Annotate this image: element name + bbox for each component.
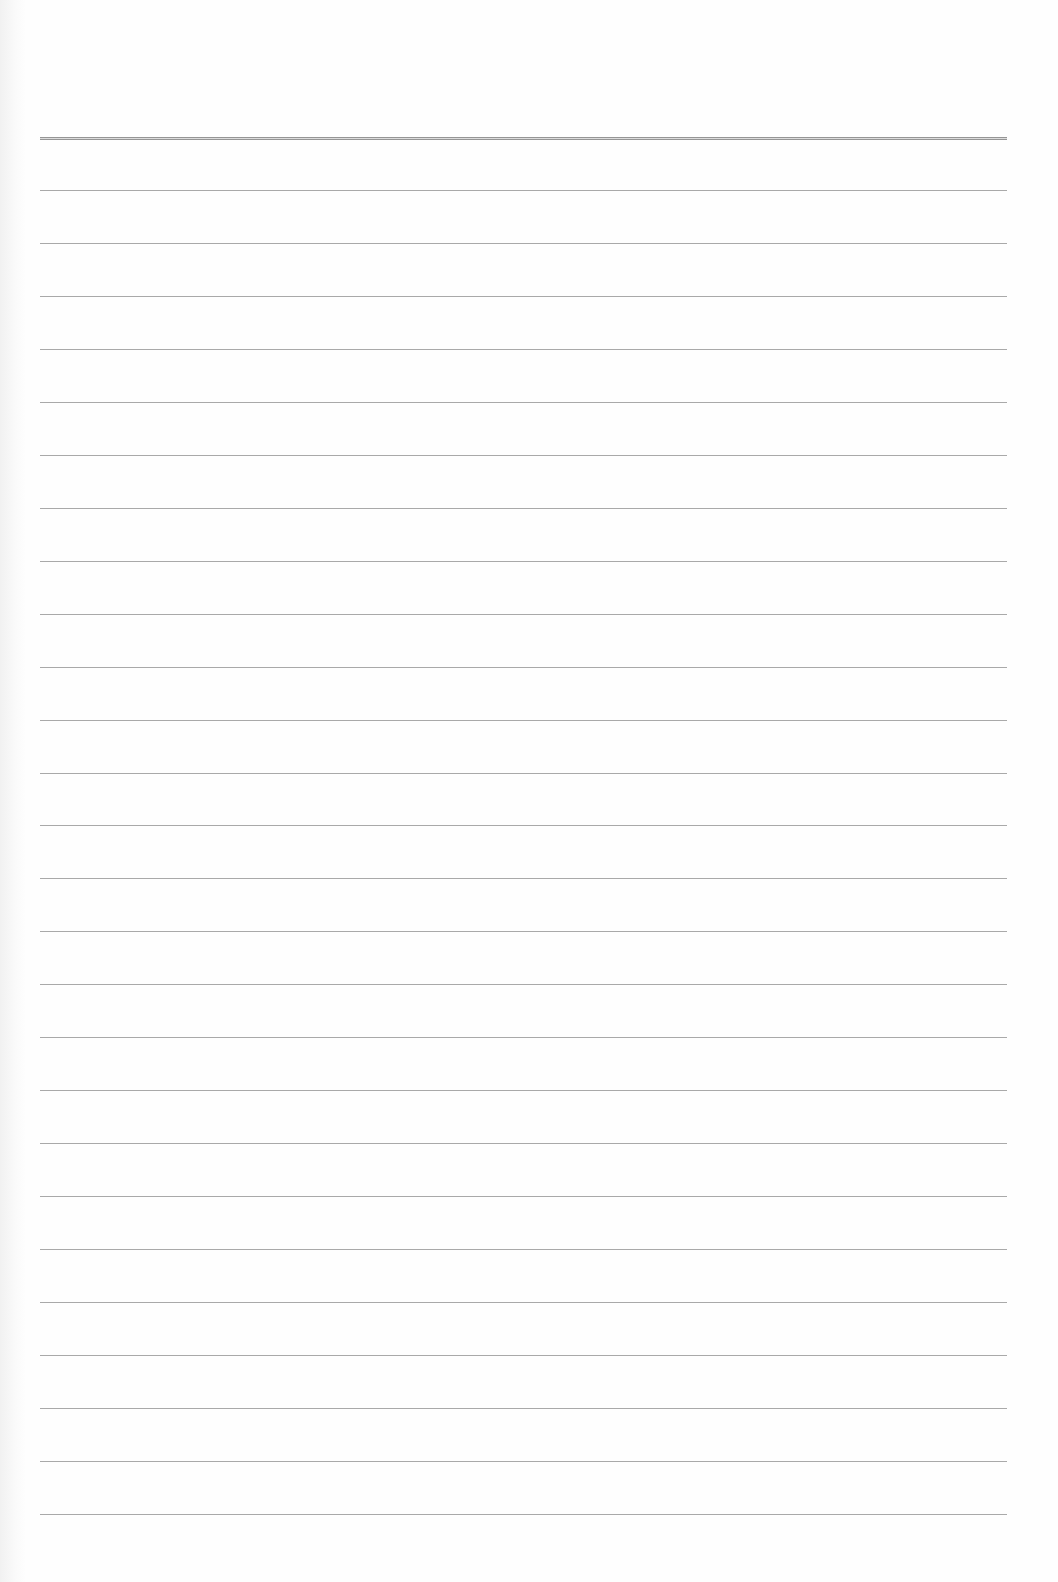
ruled-line (40, 1090, 1007, 1091)
ruled-line (40, 1461, 1007, 1462)
ruled-line (40, 1355, 1007, 1356)
ruled-paper-sheet (0, 0, 1058, 1582)
ruled-line (40, 1408, 1007, 1409)
ruled-line (40, 349, 1007, 350)
ruled-line (40, 1302, 1007, 1303)
ruled-line (40, 878, 1007, 879)
ruled-line (40, 667, 1007, 668)
ruled-line (40, 455, 1007, 456)
ruled-line (40, 1037, 1007, 1038)
paper-left-edge (0, 0, 26, 1582)
ruled-line (40, 1196, 1007, 1197)
ruled-line (40, 1143, 1007, 1144)
ruled-line (40, 931, 1007, 932)
ruled-line (40, 402, 1007, 403)
ruled-line (40, 561, 1007, 562)
ruled-line (40, 720, 1007, 721)
ruled-line (40, 773, 1007, 774)
ruled-line (40, 614, 1007, 615)
ruled-line (40, 984, 1007, 985)
ruled-line (40, 137, 1007, 140)
ruled-line (40, 1514, 1007, 1515)
ruled-line (40, 1249, 1007, 1250)
ruled-line (40, 190, 1007, 191)
ruled-line (40, 296, 1007, 297)
ruled-line (40, 508, 1007, 509)
ruled-line (40, 243, 1007, 244)
ruled-line (40, 825, 1007, 826)
